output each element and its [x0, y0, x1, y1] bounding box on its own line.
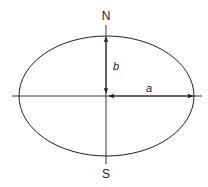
south-label: S [102, 167, 110, 181]
semi-major-label: a [146, 82, 152, 94]
ellipse-diagram: N S b a [0, 0, 208, 187]
north-label: N [102, 9, 111, 23]
semi-minor-label: b [113, 60, 119, 72]
